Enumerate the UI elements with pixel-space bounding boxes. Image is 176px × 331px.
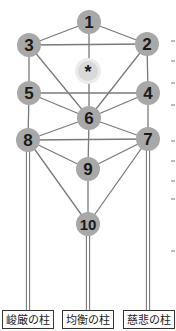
node-label: 5: [24, 84, 33, 103]
node-label: 8: [23, 131, 32, 150]
node-label: *: [84, 62, 91, 82]
tree-of-life-diagram: 123*45678910: [0, 0, 176, 331]
node-1: 1: [77, 10, 101, 34]
edge-8-10: [28, 140, 88, 224]
node-label: 2: [142, 35, 151, 54]
edge-2-6: [89, 44, 147, 118]
pillar-label-severity: 峻厳の柱: [2, 310, 54, 329]
node-label: 10: [80, 216, 97, 233]
cropped-side-text: [170, 0, 176, 331]
node-8: 8: [16, 128, 40, 152]
edge-3-6: [29, 45, 89, 118]
node-4: 4: [136, 81, 160, 105]
node-7: 7: [136, 127, 160, 151]
node-6: 6: [77, 106, 101, 130]
node-label: 6: [84, 109, 93, 128]
node-label: 3: [24, 36, 33, 55]
edge-7-8: [28, 139, 148, 140]
node-9: 9: [76, 157, 100, 181]
node-label: 4: [143, 84, 153, 103]
pillar-label-balance: 均衡の柱: [62, 310, 114, 329]
pillar-label-mercy: 慈悲の柱: [123, 310, 175, 329]
node-5: 5: [17, 81, 41, 105]
node-3: 3: [17, 33, 41, 57]
edge-7-10: [88, 139, 148, 224]
node-2: 2: [135, 32, 159, 56]
edge-2-3: [29, 44, 147, 45]
node-10: 10: [76, 212, 100, 236]
node-label: 1: [84, 13, 93, 32]
node-label: 7: [143, 130, 152, 149]
node-label: 9: [83, 160, 92, 179]
node-star: *: [75, 58, 101, 84]
